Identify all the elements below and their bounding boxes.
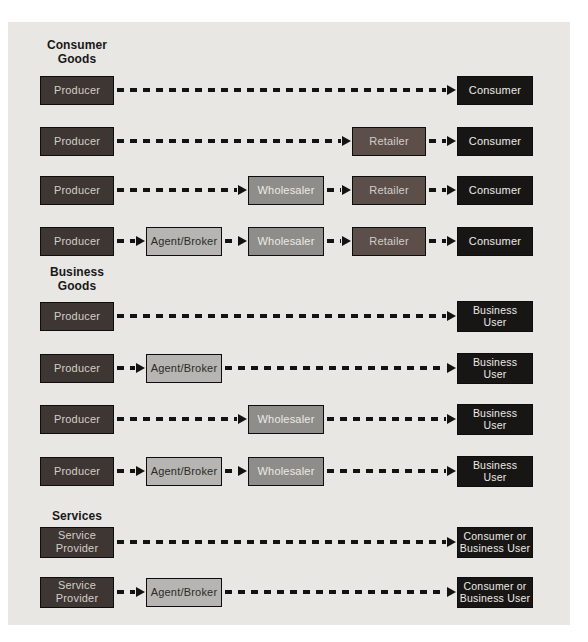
node-wholesaler: Wholesaler <box>248 457 324 486</box>
arrowhead-icon <box>136 466 145 476</box>
arrowhead-icon <box>238 185 247 195</box>
dashed-connector <box>117 314 446 318</box>
node-agent-broker: Agent/Broker <box>146 457 222 486</box>
arrowhead-icon <box>447 311 456 321</box>
node-producer: Producer <box>40 405 114 434</box>
dashed-connector <box>225 590 446 594</box>
dashed-connector <box>327 469 446 473</box>
dashed-connector <box>327 239 341 243</box>
node-producer: Producer <box>40 76 114 105</box>
arrowhead-icon <box>342 185 351 195</box>
dashed-connector <box>225 239 237 243</box>
node-producer: Producer <box>40 354 114 383</box>
dashed-connector <box>117 417 237 421</box>
node-consumer: Consumer <box>457 127 533 156</box>
node-producer: Producer <box>40 127 114 156</box>
dashed-connector <box>429 188 446 192</box>
section-heading: Business Goods <box>32 265 122 293</box>
arrowhead-icon <box>447 466 456 476</box>
arrowhead-icon <box>238 414 247 424</box>
diagram-stage: Consumer GoodsProducerConsumerProducerRe… <box>0 0 588 642</box>
node-business-user: Business User <box>457 301 533 332</box>
node-wholesaler: Wholesaler <box>248 176 324 205</box>
arrowhead-icon <box>447 136 456 146</box>
dashed-connector <box>327 188 341 192</box>
node-consumer: Consumer <box>457 76 533 105</box>
arrowhead-icon <box>238 236 247 246</box>
arrowhead-icon <box>136 236 145 246</box>
node-business-user: Business User <box>457 404 533 435</box>
arrowhead-icon <box>447 85 456 95</box>
arrowhead-icon <box>447 414 456 424</box>
arrowhead-icon <box>238 466 247 476</box>
node-retailer: Retailer <box>352 227 426 256</box>
arrowhead-icon <box>342 136 351 146</box>
dashed-connector <box>327 417 446 421</box>
dashed-connector <box>117 469 135 473</box>
node-agent-broker: Agent/Broker <box>146 578 222 607</box>
arrowhead-icon <box>342 236 351 246</box>
arrowhead-icon <box>447 236 456 246</box>
arrowhead-icon <box>447 185 456 195</box>
dashed-connector <box>117 88 446 92</box>
arrowhead-icon <box>447 587 456 597</box>
dashed-connector <box>429 239 446 243</box>
node-producer: Producer <box>40 457 114 486</box>
dashed-connector <box>117 188 237 192</box>
node-service-provider: Service Provider <box>40 527 114 558</box>
node-agent-broker: Agent/Broker <box>146 354 222 383</box>
node-business-user: Business User <box>457 353 533 384</box>
node-business-user: Business User <box>457 456 533 487</box>
section-heading: Services <box>32 509 122 523</box>
dashed-connector <box>225 366 446 370</box>
dashed-connector <box>429 139 446 143</box>
dashed-connector <box>225 469 237 473</box>
node-consumer: Consumer <box>457 227 533 256</box>
node-service-provider: Service Provider <box>40 577 114 608</box>
arrowhead-icon <box>447 363 456 373</box>
node-wholesaler: Wholesaler <box>248 227 324 256</box>
node-retailer: Retailer <box>352 176 426 205</box>
node-producer: Producer <box>40 227 114 256</box>
node-producer: Producer <box>40 302 114 331</box>
node-consumer-or-business-user: Consumer or Business User <box>457 527 533 558</box>
arrowhead-icon <box>447 537 456 547</box>
node-retailer: Retailer <box>352 127 426 156</box>
node-consumer-or-business-user: Consumer or Business User <box>457 577 533 608</box>
section-heading: Consumer Goods <box>32 38 122 66</box>
dashed-connector <box>117 540 446 544</box>
dashed-connector <box>117 239 135 243</box>
arrowhead-icon <box>136 587 145 597</box>
node-wholesaler: Wholesaler <box>248 405 324 434</box>
dashed-connector <box>117 366 135 370</box>
node-consumer: Consumer <box>457 176 533 205</box>
dashed-connector <box>117 590 135 594</box>
arrowhead-icon <box>136 363 145 373</box>
node-producer: Producer <box>40 176 114 205</box>
dashed-connector <box>117 139 341 143</box>
node-agent-broker: Agent/Broker <box>146 227 222 256</box>
